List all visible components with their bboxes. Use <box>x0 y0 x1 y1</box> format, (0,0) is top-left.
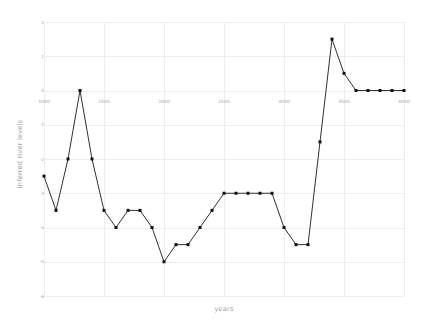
y-tick-label: -4 <box>22 225 44 230</box>
x-tick-label: 2000 <box>158 99 170 104</box>
x-axis-title: years <box>0 305 448 313</box>
y-tick-label: 1 <box>22 54 44 59</box>
gridline-vertical <box>284 22 285 296</box>
gridline-vertical <box>104 22 105 296</box>
gridline-vertical <box>44 22 45 296</box>
chart-figure: 1000150020002500300035004000 inferred ri… <box>0 0 448 325</box>
y-tick-label: -2 <box>22 157 44 162</box>
x-tick-label: 4000 <box>398 99 410 104</box>
gridline-horizontal <box>44 296 404 297</box>
y-tick-label: -5 <box>22 259 44 264</box>
gridline-vertical <box>344 22 345 296</box>
x-tick-label: 1500 <box>98 99 110 104</box>
plot-area <box>44 22 404 296</box>
x-tick-label: 2500 <box>218 99 230 104</box>
y-axis-title: inferred river levels <box>16 94 24 214</box>
y-tick-label: 0 <box>22 88 44 93</box>
gridline-vertical <box>224 22 225 296</box>
y-tick-label: 2 <box>22 20 44 25</box>
gridline-vertical <box>164 22 165 296</box>
gridline-vertical <box>404 22 405 296</box>
x-axis-tick-labels: 1000150020002500300035004000 <box>44 99 404 107</box>
y-tick-label: -3 <box>22 191 44 196</box>
x-tick-label: 3000 <box>278 99 290 104</box>
x-tick-label: 3500 <box>338 99 350 104</box>
y-tick-label: -1 <box>22 122 44 127</box>
y-tick-label: -6 <box>22 294 44 299</box>
x-tick-label: 1000 <box>38 99 50 104</box>
